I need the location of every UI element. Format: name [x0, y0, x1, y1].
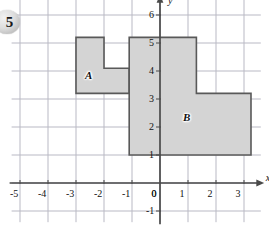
y-tick-label-3: 3: [149, 94, 154, 104]
x-tick-label-6: 1: [180, 189, 185, 199]
x-tick-label-2: -3: [66, 189, 74, 199]
x-tick-label-7: 2: [208, 189, 213, 199]
x-tick-label-4: -1: [122, 189, 130, 199]
region-label-a: A: [85, 70, 92, 81]
exercise-number-text: 5: [1, 15, 14, 30]
coordinate-plane-svg: [0, 0, 269, 242]
shaded-region-a: [76, 37, 129, 93]
x-tick-label-3: -2: [94, 189, 102, 199]
y-tick-label-1: 5: [149, 38, 154, 48]
y-tick-label-7: -1: [146, 206, 154, 216]
shape-polygons: [76, 37, 251, 155]
y-tick-label-4: 2: [149, 122, 154, 132]
x-axis-name: x: [266, 173, 269, 183]
y-axis-name: y: [168, 0, 172, 6]
x-axis-arrowhead: [256, 180, 264, 187]
x-tick-label-0: -5: [10, 189, 18, 199]
y-tick-label-6: 0: [152, 189, 157, 199]
y-axis-arrowhead: [157, 0, 164, 3]
shaded-region-b: [129, 37, 251, 155]
y-tick-label-0: 6: [149, 10, 154, 20]
y-tick-label-2: 4: [149, 66, 154, 76]
x-tick-label-8: 3: [236, 189, 241, 199]
region-label-b: B: [183, 112, 190, 123]
x-tick-label-1: -4: [38, 189, 46, 199]
y-tick-label-5: 1: [149, 150, 154, 160]
coordinate-grid-figure: 5 -5-4-3-2-101236543210-1xyAB: [0, 0, 269, 242]
